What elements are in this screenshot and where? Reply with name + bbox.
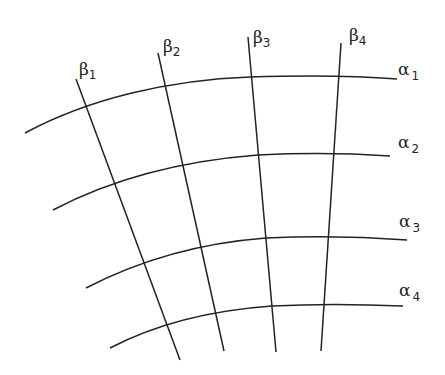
beta-label-1: β1 bbox=[79, 59, 96, 82]
beta-line-3 bbox=[248, 37, 276, 352]
alpha-label-2: α2 bbox=[398, 132, 419, 156]
beta-line-2 bbox=[158, 53, 224, 351]
beta-label-3: β3 bbox=[253, 27, 270, 50]
alpha-label-4: α4 bbox=[399, 280, 420, 304]
alpha-label-1: α1 bbox=[398, 59, 419, 83]
coordinate-grid-diagram: β1 β2 β3 β4 α1 α2 α3 α4 bbox=[0, 0, 445, 375]
alpha-line-3 bbox=[86, 237, 407, 288]
beta-label-2: β2 bbox=[163, 36, 180, 59]
beta-line-1 bbox=[76, 79, 180, 360]
alpha-label-3: α3 bbox=[399, 211, 420, 235]
alpha-line-4 bbox=[110, 304, 403, 348]
alpha-line-1 bbox=[25, 76, 397, 133]
alpha-line-2 bbox=[53, 153, 390, 210]
beta-label-4: β4 bbox=[349, 25, 366, 48]
grid-svg: β1 β2 β3 β4 α1 α2 α3 α4 bbox=[0, 0, 445, 375]
